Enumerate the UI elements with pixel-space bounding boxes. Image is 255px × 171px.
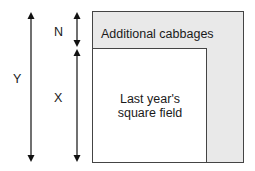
x-double-arrow-icon — [74, 49, 81, 162]
diagram-canvas — [0, 0, 255, 171]
y-double-arrow-icon — [28, 12, 35, 162]
additional-cabbages-label: Additional cabbages — [101, 27, 214, 41]
n-double-arrow-icon — [74, 12, 81, 47]
n-label: N — [54, 25, 63, 39]
x-label: X — [54, 91, 62, 105]
inner-field-label: Last year's square field — [93, 92, 207, 120]
inner-field-label-line1: Last year's — [93, 92, 207, 106]
inner-field-label-line2: square field — [93, 106, 207, 120]
y-label: Y — [13, 72, 21, 86]
